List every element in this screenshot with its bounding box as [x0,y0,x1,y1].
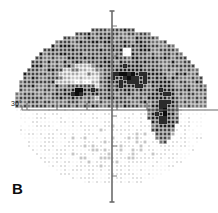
axis-degree-label: 30° [11,100,22,107]
visual-field-plot [0,0,218,213]
visual-field-figure: 30° B Grayscale perimetry printout: supe… [0,0,218,213]
panel-label: B [12,181,23,196]
plot-axes [0,0,218,213]
